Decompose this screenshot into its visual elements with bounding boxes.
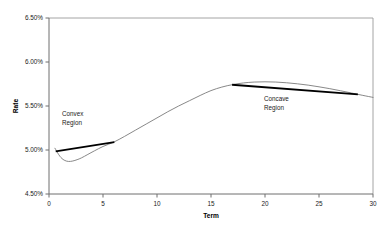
rate-vs-term-chart: 4.50%5.00%5.50%6.00%6.50% 051015202530 C… — [0, 0, 388, 232]
y-axis-tick-label: 4.50% — [25, 190, 43, 197]
y-axis-tick-label: 6.50% — [25, 14, 43, 21]
y-axis-tick-label: 5.00% — [25, 146, 43, 153]
x-axis-tick-label: 5 — [101, 200, 105, 207]
x-axis-tick-label: 10 — [153, 200, 161, 207]
x-axis-tick-label: 20 — [261, 200, 269, 207]
x-axis-tick-label: 30 — [369, 200, 377, 207]
x-axis-tick-label: 15 — [207, 200, 215, 207]
x-axis-title: Term — [203, 212, 219, 219]
concave-region-label-line2: Region — [264, 104, 284, 112]
chart-background — [0, 0, 388, 232]
y-axis-tick-label: 5.50% — [25, 102, 43, 109]
chart-container: 4.50%5.00%5.50%6.00%6.50% 051015202530 C… — [0, 0, 388, 232]
x-axis-tick-label: 25 — [315, 200, 323, 207]
y-axis-title: Rate — [12, 99, 19, 114]
convex-region-label-line2: Region — [62, 119, 82, 127]
concave-region-label-line1: Concave — [264, 95, 289, 102]
convex-region-label-line1: Convex — [62, 110, 84, 117]
x-axis-tick-label: 0 — [47, 200, 51, 207]
y-axis-tick-label: 6.00% — [25, 58, 43, 65]
